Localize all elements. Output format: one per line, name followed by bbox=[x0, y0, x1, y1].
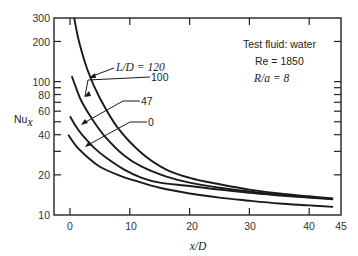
x-tick-labels: 0 10 20 30 40 45 bbox=[67, 220, 347, 232]
annotation-ratio: R/a = 8 bbox=[253, 72, 289, 84]
leader-lines bbox=[82, 68, 150, 146]
annotation-re: Re = 1850 bbox=[255, 55, 304, 67]
y-tick-80: 80 bbox=[38, 89, 50, 101]
x-tick-30: 30 bbox=[244, 220, 256, 232]
x-tick-20: 20 bbox=[186, 220, 198, 232]
x-axis-title: x/D bbox=[189, 240, 207, 252]
annotation-fluid: Test fluid: water bbox=[243, 38, 316, 50]
leader-47 bbox=[82, 101, 140, 124]
x-tick-45: 45 bbox=[335, 220, 347, 232]
label-ld-0: 0 bbox=[148, 116, 154, 128]
y-tick-10: 10 bbox=[38, 209, 50, 221]
chart: 300 200 100 80 60 40 20 10 0 10 20 30 40… bbox=[0, 0, 358, 256]
x-tick-40: 40 bbox=[303, 220, 315, 232]
y-tick-40: 40 bbox=[38, 129, 50, 141]
curve-ld47 bbox=[70, 116, 333, 199]
y-tick-300: 300 bbox=[32, 12, 50, 24]
y-tick-200: 200 bbox=[32, 36, 50, 48]
y-tick-20: 20 bbox=[38, 169, 50, 181]
label-ld-100: 100 bbox=[151, 71, 169, 83]
x-tick-10: 10 bbox=[125, 220, 137, 232]
y-axis-title: Nux bbox=[14, 113, 33, 128]
x-tick-0: 0 bbox=[67, 220, 73, 232]
arrow-47-icon bbox=[81, 119, 88, 125]
arrow-0-icon bbox=[85, 141, 92, 147]
y-tick-100: 100 bbox=[32, 76, 50, 88]
y-tick-labels: 300 200 100 80 60 40 20 10 bbox=[32, 12, 50, 221]
label-ld-47: 47 bbox=[141, 95, 153, 107]
y-tick-60: 60 bbox=[38, 105, 50, 117]
